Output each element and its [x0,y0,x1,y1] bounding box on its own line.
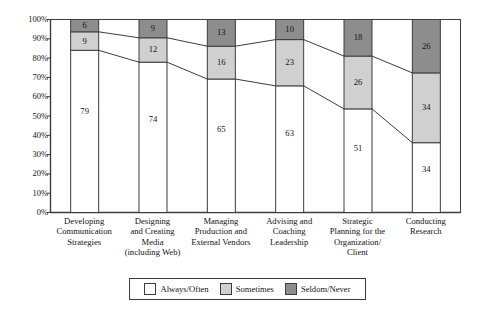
bar-value-label: 34 [406,103,446,112]
y-axis-tick-label: 40% [14,131,48,140]
y-axis-tick-label: 60% [14,92,48,101]
category-label-line: Client [316,247,398,257]
category-label-line: Research [385,226,467,236]
bar-value-label: 79 [65,107,105,116]
bar-value-label: 26 [338,78,378,87]
legend-swatch-icon [285,283,297,295]
bar-value-label: 23 [270,58,310,67]
y-axis-tick-label: 90% [14,34,48,43]
bar-segment-always-often [344,109,372,213]
y-axis-tick-label: 10% [14,189,48,198]
y-axis-tick-labels: 100%90%80%70%60%50%40%30%20%10%0% [8,0,48,310]
category-label-line: Conducting [385,216,467,226]
bar-value-label: 34 [406,165,446,174]
bar-value-label: 13 [201,28,241,37]
bar-segment-always-often [276,86,304,213]
bar-value-label: 74 [133,115,173,124]
stacked-bar-chart: 100%90%80%70%60%50%40%30%20%10%0% 799674… [0,0,482,310]
bar-value-label: 6 [65,21,105,30]
bar-value-label: 51 [338,144,378,153]
y-axis-tick-label: 20% [14,169,48,178]
y-axis-tick-label: 50% [14,112,48,121]
bar-value-label: 65 [201,125,241,134]
y-axis-tick-label: 100% [14,15,48,24]
legend-swatch-icon [144,283,156,295]
bar-segment-always-often [412,143,440,213]
plot-frame [51,20,461,213]
bar-value-label: 16 [201,58,241,67]
bar-value-label: 10 [270,25,310,34]
bar-segment-always-often [71,50,99,212]
legend-label: Always/Often [160,285,208,294]
legend-item[interactable]: Always/Often [144,283,208,295]
bar-segment-always-often [207,79,235,212]
x-axis-category-label: ConductingResearch [385,216,467,237]
chart-legend: Always/OftenSometimesSeldom/Never [129,278,366,300]
y-axis-tick-label: 70% [14,73,48,82]
y-axis-tick-label: 30% [14,150,48,159]
category-label-line: (including Web) [111,247,193,257]
legend-label: Seldom/Never [301,285,351,294]
legend-item[interactable]: Seldom/Never [285,283,351,295]
bar-value-label: 12 [133,45,173,54]
bar-value-label: 9 [133,24,173,33]
bar-value-label: 9 [65,37,105,46]
legend-swatch-icon [220,283,232,295]
y-axis-tick-label: 80% [14,54,48,63]
x-axis-category-labels: DevelopingCommunicationStrategiesDesigni… [50,216,462,278]
bar-segment-always-often [139,62,167,212]
bar-value-label: 18 [338,33,378,42]
bar-value-label: 26 [406,42,446,51]
legend-item[interactable]: Sometimes [220,283,274,295]
category-label-line: Organization/ [316,237,398,247]
legend-label: Sometimes [236,285,274,294]
bar-value-label: 63 [270,129,310,138]
